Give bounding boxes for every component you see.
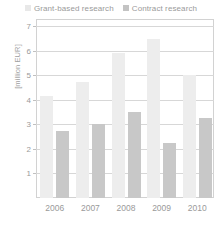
bar-contract-2010 <box>199 118 212 198</box>
legend-swatch-icon-contract <box>123 5 129 11</box>
x-axis-tick-label: 2009 <box>152 203 171 213</box>
y-axis-tick-label: 7 <box>27 22 31 31</box>
bar-group <box>76 19 105 198</box>
bar-group <box>112 19 141 198</box>
x-axis-tick-label: 2010 <box>188 203 207 213</box>
y-axis-title: [million EUR] <box>13 27 22 107</box>
x-axis-tick-label: 2006 <box>45 203 64 213</box>
legend-swatch-icon-grant <box>25 5 31 11</box>
plot-wrapper: 1234567 <box>36 19 214 198</box>
x-axis-labels: 20062007200820092010 <box>36 203 214 217</box>
y-axis-tick-label: 4 <box>27 95 31 104</box>
y-axis-tick-label: 6 <box>27 46 31 55</box>
bar-grant-2009 <box>147 39 160 198</box>
bar-contract-2009 <box>163 143 176 198</box>
bar-group <box>147 19 176 198</box>
bars-layer <box>36 19 214 198</box>
bar-grant-2008 <box>112 53 125 198</box>
bar-group <box>40 19 69 198</box>
legend-item-contract-research: Contract research <box>123 4 197 13</box>
bar-grant-2010 <box>183 75 196 198</box>
bar-contract-2007 <box>92 124 105 198</box>
bar-grant-2007 <box>76 82 89 198</box>
bar-chart: Grant-based research Contract research [… <box>0 0 222 228</box>
bar-group <box>183 19 212 198</box>
legend-item-grant-based-research: Grant-based research <box>25 4 114 13</box>
bar-grant-2006 <box>40 96 53 198</box>
legend-label-grant: Grant-based research <box>34 4 114 13</box>
chart-legend: Grant-based research Contract research <box>0 1 222 15</box>
y-axis-tick-label: 5 <box>27 71 31 80</box>
y-axis-tick-label: 1 <box>27 169 31 178</box>
y-axis-tick-label: 3 <box>27 120 31 129</box>
bar-contract-2006 <box>56 131 69 198</box>
x-axis-tick-label: 2008 <box>117 203 136 213</box>
x-axis-tick-label: 2007 <box>81 203 100 213</box>
bar-contract-2008 <box>128 112 141 198</box>
y-axis-tick-label: 2 <box>27 144 31 153</box>
legend-label-contract: Contract research <box>132 4 197 13</box>
